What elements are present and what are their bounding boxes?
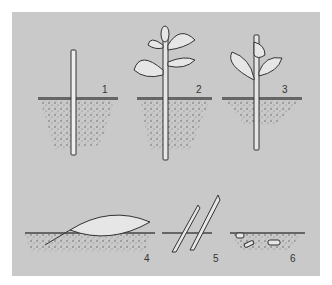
cutting-3-leafy-stem <box>231 35 282 150</box>
label-5: 5 <box>213 253 219 264</box>
label-2: 2 <box>196 84 202 95</box>
cutting-5-leaf-sections <box>172 195 220 252</box>
label-3: 3 <box>282 84 288 95</box>
label-1: 1 <box>102 84 108 95</box>
soil-top <box>38 97 302 150</box>
label-6: 6 <box>290 253 296 264</box>
soil-bottom <box>25 232 305 252</box>
label-4: 4 <box>144 253 150 264</box>
cuttings-illustration <box>0 0 332 285</box>
cutting-1-stem <box>71 50 76 155</box>
